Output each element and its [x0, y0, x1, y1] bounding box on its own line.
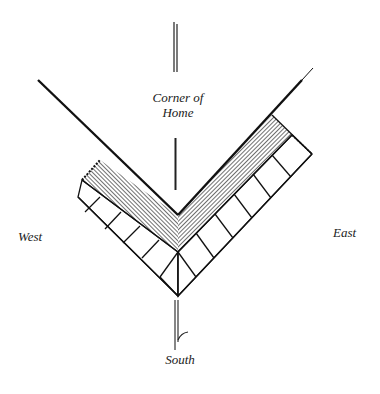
south-label: South — [155, 352, 205, 367]
stepping-tiles-east — [160, 115, 312, 296]
corner-planting-diagram — [0, 0, 380, 394]
west-label: West — [18, 229, 68, 244]
south-pointer-icon — [175, 300, 188, 350]
east-label: East — [333, 225, 373, 240]
corner-label-line1: Corner of — [128, 90, 228, 105]
corner-label-line2: Home — [128, 105, 228, 120]
corner-of-home-label: Corner of Home — [128, 90, 228, 120]
